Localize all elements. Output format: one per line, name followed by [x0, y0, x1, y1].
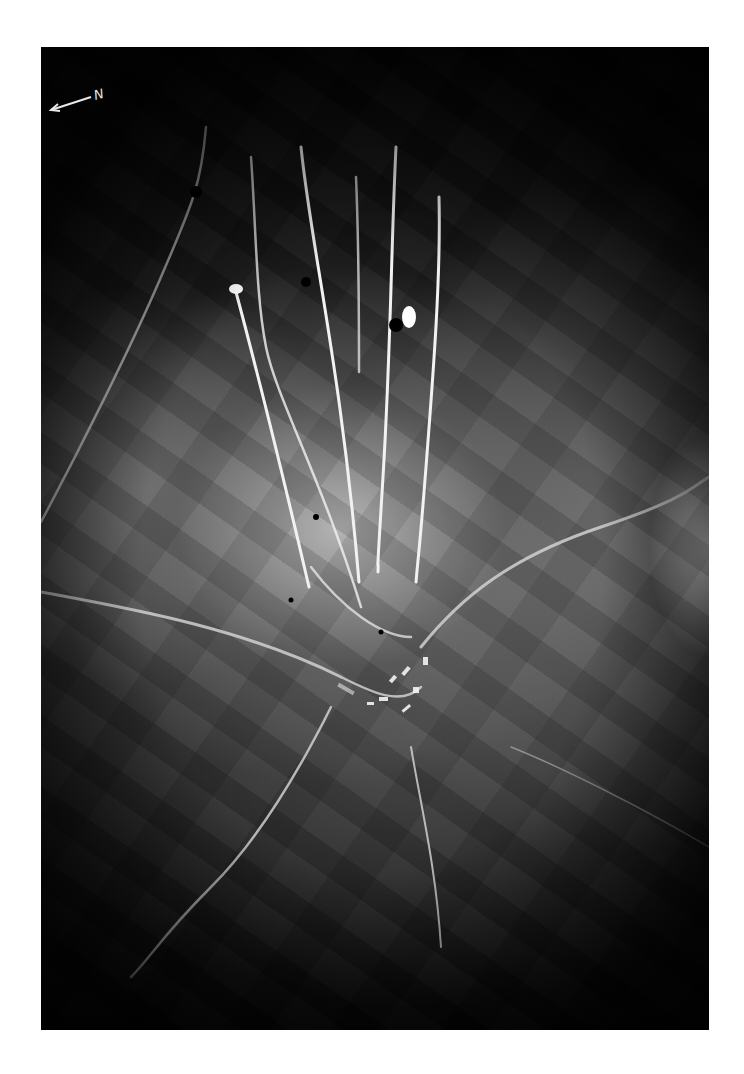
aerial-photograph: N [41, 47, 709, 1030]
north-arrow-icon [47, 87, 97, 117]
vignette [41, 47, 709, 1030]
north-marker: N [47, 87, 117, 117]
